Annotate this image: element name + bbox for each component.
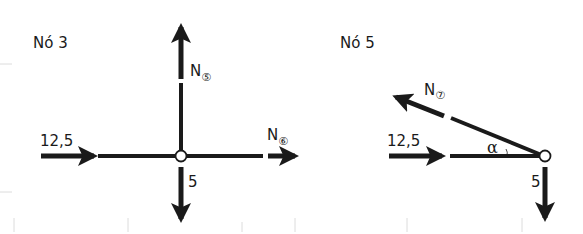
applied-force-5-label: 5: [188, 173, 198, 191]
node-5-title: Nó 5: [340, 34, 375, 52]
n7-label: N⑦: [424, 81, 445, 102]
n5-label: N⑤: [190, 62, 211, 84]
node-3-diagram: Nó 3 12,5 N⑤ N⑥ 5: [33, 27, 295, 219]
node-5-joint: [540, 151, 551, 162]
node-5-diagram: Nó 5 12,5 N⑦ α 5: [340, 34, 551, 218]
applied-force-5-label: 5: [531, 173, 541, 191]
applied-force-12-5-label: 12,5: [387, 132, 420, 150]
node-3-title: Nó 3: [33, 34, 68, 52]
applied-force-12-5-label: 12,5: [40, 132, 73, 150]
angle-alpha-label: α: [487, 138, 498, 157]
n6-label: N⑥: [267, 126, 288, 148]
free-body-diagrams: Nó 3 12,5 N⑤ N⑥ 5 Nó 5 12,5 N⑦ α: [0, 0, 583, 234]
node-3-joint: [176, 151, 187, 162]
